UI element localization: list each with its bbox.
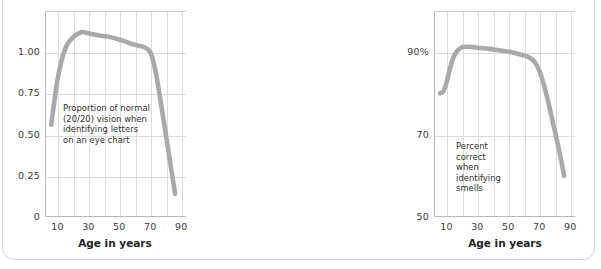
x-axis-tick-label: 70 xyxy=(135,221,165,232)
x-axis-title: Age in years xyxy=(55,237,175,249)
chart-annotation: Proportion of normal (20/20) vision when… xyxy=(63,103,150,145)
curve-smell xyxy=(200,0,400,269)
y-axis-tick-label: 0.25 xyxy=(0,170,40,181)
x-axis-tick-label: 90 xyxy=(166,221,196,232)
x-axis-tick-label: 10 xyxy=(42,221,72,232)
y-axis-tick-label: 0.75 xyxy=(0,87,40,98)
x-axis-tick-label: 30 xyxy=(73,221,103,232)
chart-panel-smell: 507090%1030507090Age in yearsPercent cor… xyxy=(200,0,400,269)
x-axis-tick-label: 50 xyxy=(104,221,134,232)
chart-panel-vision: 00.250.500.751.001030507090Age in yearsP… xyxy=(0,0,200,269)
curve-speech xyxy=(400,0,600,269)
chart-panel-speech: 507090%1030507090Age in yearsPercent cor… xyxy=(400,0,600,269)
y-axis-tick-label: 1.00 xyxy=(0,46,40,57)
y-axis-tick-label: 0.50 xyxy=(0,129,40,140)
y-axis-tick-label: 0 xyxy=(0,211,40,222)
